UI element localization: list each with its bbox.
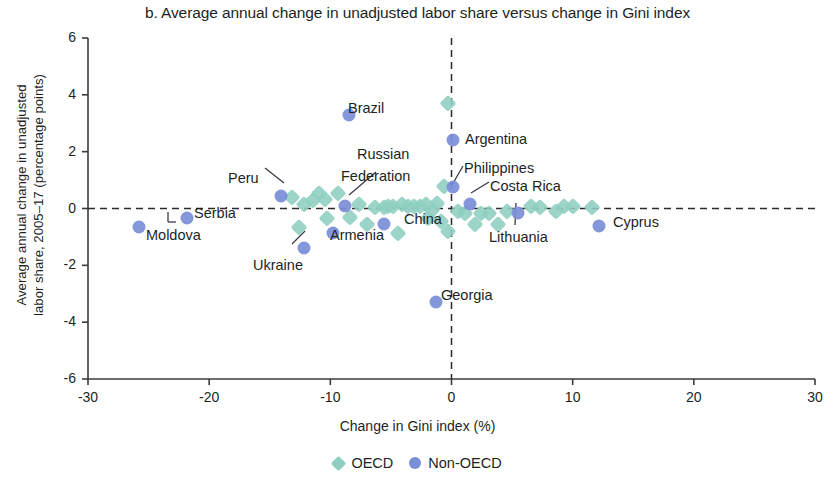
x-tick-label: 10	[533, 389, 613, 405]
legend-item-oecd[interactable]: OECD	[333, 455, 393, 471]
point-label: Ukraine	[253, 257, 303, 273]
y-tick-label: 0	[0, 200, 76, 216]
y-tick-label: -2	[0, 256, 76, 272]
x-tick-label: -20	[169, 389, 249, 405]
point-label: Georgia	[441, 287, 493, 303]
y-tick-label: 4	[0, 86, 76, 102]
data-point-circle[interactable]	[274, 189, 287, 202]
x-tick-label: 0	[412, 389, 492, 405]
data-point-circle[interactable]	[593, 219, 606, 232]
point-label: China	[404, 211, 442, 227]
point-label: Cyprus	[613, 214, 659, 230]
point-label: Peru	[228, 170, 259, 186]
chart-legend: OECD Non-OECD	[0, 455, 835, 471]
data-point-circle[interactable]	[512, 206, 525, 219]
legend-label-oecd: OECD	[351, 455, 393, 471]
y-tick-label: 2	[0, 143, 76, 159]
x-tick-label: 30	[775, 389, 835, 405]
data-point-circle[interactable]	[463, 198, 476, 211]
legend-marker-circle-icon	[409, 457, 421, 469]
scatter-chart-figure: b. Average annual change in unadjusted l…	[0, 0, 835, 483]
data-point-circle[interactable]	[446, 181, 459, 194]
data-point-circle[interactable]	[181, 212, 194, 225]
legend-label-non-oecd: Non-OECD	[428, 455, 501, 471]
point-label: Serbia	[194, 205, 236, 221]
legend-item-non-oecd[interactable]: Non-OECD	[409, 455, 501, 471]
point-label: Federation	[341, 168, 410, 184]
point-label: Russian	[357, 146, 409, 162]
y-tick-label: -6	[0, 370, 76, 386]
x-tick-label: 20	[654, 389, 734, 405]
plot-area	[0, 0, 835, 483]
data-point-circle[interactable]	[297, 242, 310, 255]
legend-marker-diamond-icon	[331, 455, 347, 471]
x-tick-label: -10	[290, 389, 370, 405]
x-tick-label: -30	[48, 389, 128, 405]
point-label: Brazil	[348, 100, 384, 116]
point-label: Argentina	[465, 131, 527, 147]
point-label: Armenia	[330, 227, 384, 243]
y-tick-label: 6	[0, 29, 76, 45]
data-point-circle[interactable]	[446, 134, 459, 147]
data-point-circle[interactable]	[132, 220, 145, 233]
point-label: Moldova	[146, 227, 201, 243]
point-label: Philippines	[464, 160, 534, 176]
point-label: Lithuania	[489, 229, 548, 245]
y-tick-label: -4	[0, 313, 76, 329]
point-label: Costa Rica	[490, 178, 561, 194]
data-point-circle[interactable]	[338, 199, 351, 212]
